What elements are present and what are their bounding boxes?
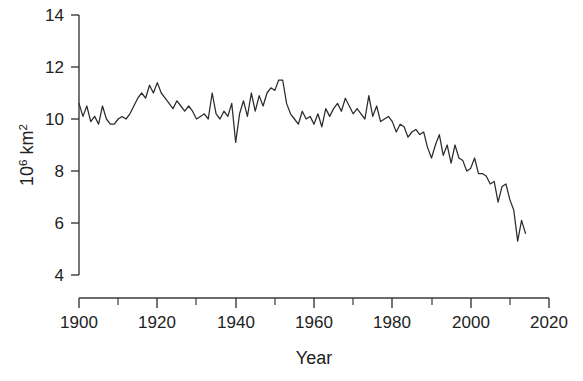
line-chart-svg: 14 12 10 8 6 4 106 km2 <box>0 0 583 381</box>
y-axis-tick-labels: 14 12 10 8 6 4 <box>45 6 64 285</box>
y-tick-label-14: 14 <box>45 6 64 25</box>
x-tick-label-2020: 2020 <box>530 313 568 332</box>
x-tick-label-1960: 1960 <box>295 313 333 332</box>
y-tick-label-10: 10 <box>45 110 64 129</box>
y-tick-label-6: 6 <box>55 214 64 233</box>
x-axis-tick-labels: 1900 1920 1940 1960 1980 2000 2020 <box>60 313 568 332</box>
x-axis-ticks <box>79 298 549 308</box>
x-tick-label-2000: 2000 <box>452 313 490 332</box>
y-tick-label-12: 12 <box>45 58 64 77</box>
x-axis-title: Year <box>296 348 332 368</box>
x-tick-label-1940: 1940 <box>217 313 255 332</box>
data-series-line <box>79 80 526 241</box>
y-tick-label-8: 8 <box>55 162 64 181</box>
y-axis-title-base: 10 <box>17 166 37 186</box>
chart-figure: 14 12 10 8 6 4 106 km2 <box>0 0 583 381</box>
y-tick-label-4: 4 <box>55 266 64 285</box>
y-axis-title-unit: km <box>17 130 37 159</box>
y-axis-title-unit-exponent: 2 <box>17 124 29 130</box>
x-tick-label-1920: 1920 <box>138 313 176 332</box>
y-axis-ticks <box>71 15 79 275</box>
x-tick-label-1900: 1900 <box>60 313 98 332</box>
y-axis-title: 106 km2 <box>17 124 37 186</box>
x-tick-label-1980: 1980 <box>373 313 411 332</box>
svg-text:106 km2: 106 km2 <box>17 124 37 186</box>
